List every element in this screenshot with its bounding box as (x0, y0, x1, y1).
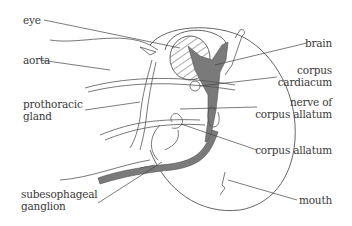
mouth-mark (220, 172, 225, 195)
label-mouth: mouth (299, 194, 332, 206)
label-corpus-allatum: corpus allatum (255, 144, 332, 156)
label-text-line2: corpus allatum (255, 108, 332, 120)
label-text-line1: subesophageal (21, 188, 98, 200)
nerve-cord-band (98, 130, 218, 184)
leader-brain (215, 43, 307, 65)
label-aorta: aorta (23, 54, 50, 66)
leader-aorta (40, 60, 110, 70)
leader-mouth (228, 180, 297, 200)
label-prothoracic-gland: prothoracic gland (23, 98, 83, 122)
label-nerve-of-corpus-allatum: nerve of corpus allatum (255, 96, 332, 120)
label-text: corpus allatum (255, 144, 332, 156)
label-text-line1: corpus (278, 64, 332, 76)
label-text-line2: ganglion (21, 200, 98, 212)
label-eye: eye (23, 14, 41, 26)
corpus-cardiacum (190, 81, 200, 91)
leader-prothoracic (85, 102, 140, 110)
leader-eye (44, 20, 180, 48)
label-corpus-cardiacum: corpus cardiacum (278, 64, 332, 88)
insect-endocrine-diagram: eye aorta prothoracic gland subesophagea… (0, 0, 352, 226)
corpus-allatum (171, 114, 183, 129)
leader-allatum (181, 124, 257, 150)
prothoracic-gland (130, 60, 156, 150)
label-text-line2: cardiacum (278, 76, 332, 88)
leader-subesophageal (98, 162, 162, 203)
label-text-line2: gland (23, 110, 83, 122)
label-text-line1: prothoracic (23, 98, 83, 110)
label-text: mouth (299, 194, 332, 206)
label-subesophageal-ganglion: subesophageal ganglion (21, 188, 98, 212)
label-text: aorta (23, 54, 50, 66)
label-brain: brain (305, 37, 332, 49)
label-text: brain (305, 37, 332, 49)
leader-nerve-allatum (180, 107, 257, 109)
label-text: eye (23, 14, 41, 26)
label-text-line1: nerve of (255, 96, 332, 108)
